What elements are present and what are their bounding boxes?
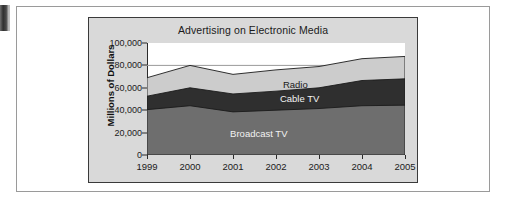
y-tick-mark xyxy=(142,87,147,88)
figure-outer-panel: Advertising on Electronic Media Millions… xyxy=(16,6,490,192)
x-tick-mark xyxy=(147,155,148,159)
stacked-area-series-group xyxy=(147,43,405,155)
y-tick-mark xyxy=(142,43,147,44)
x-tick-label: 2001 xyxy=(222,161,243,172)
y-tick-mark xyxy=(142,65,147,66)
y-tick-label: 40,000 xyxy=(114,105,142,115)
x-tick-mark xyxy=(405,155,406,159)
y-tick-label: 100,000 xyxy=(109,38,142,48)
plot-area-wrapper: 020,00040,00060,00080,000100,00019992000… xyxy=(147,43,405,155)
area-series-broadcast-tv xyxy=(147,105,405,155)
x-tick-label: 2002 xyxy=(265,161,286,172)
chart-title: Advertising on Electronic Media xyxy=(89,24,417,36)
chart-panel: Advertising on Electronic Media Millions… xyxy=(88,17,418,183)
page-edge-artifact xyxy=(0,5,10,31)
x-tick-label: 2004 xyxy=(351,161,372,172)
x-tick-mark xyxy=(276,155,277,159)
x-tick-mark xyxy=(233,155,234,159)
y-tick-mark xyxy=(142,132,147,133)
y-tick-mark xyxy=(142,110,147,111)
x-tick-label: 1999 xyxy=(136,161,157,172)
x-tick-mark xyxy=(319,155,320,159)
x-tick-label: 2003 xyxy=(308,161,329,172)
x-tick-mark xyxy=(190,155,191,159)
x-tick-label: 2000 xyxy=(179,161,200,172)
y-tick-label: 20,000 xyxy=(114,128,142,138)
x-tick-mark xyxy=(362,155,363,159)
y-tick-label: 60,000 xyxy=(114,83,142,93)
screenshot-root: Advertising on Electronic Media Millions… xyxy=(0,0,510,207)
y-tick-label: 80,000 xyxy=(114,60,142,70)
x-tick-label: 2005 xyxy=(394,161,415,172)
